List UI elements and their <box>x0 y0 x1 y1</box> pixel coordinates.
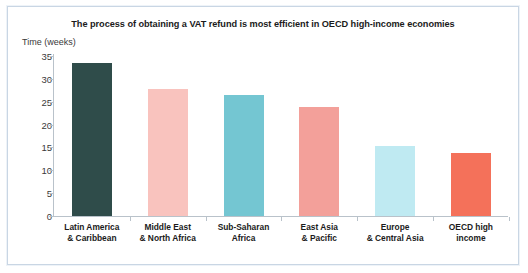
bar-2 <box>148 89 188 216</box>
bar-1 <box>72 63 112 216</box>
bar-3 <box>224 95 264 216</box>
y-tick-mark-30 <box>49 79 54 80</box>
x-category-label-line1: Middle East <box>144 222 191 232</box>
chart-figure: The process of obtaining a VAT refund is… <box>7 6 519 265</box>
bar-5 <box>375 146 415 216</box>
y-tick-mark-15 <box>49 147 54 148</box>
y-tick-mark-20 <box>49 125 54 126</box>
x-tick-mark-5 <box>433 217 434 221</box>
y-tick-mark-5 <box>49 193 54 194</box>
x-tick-mark-3 <box>281 217 282 221</box>
x-tick-mark-1 <box>130 217 131 221</box>
x-tick-mark-4 <box>357 217 358 221</box>
y-tick-mark-25 <box>49 102 54 103</box>
x-category-label-line1: Europe <box>381 222 410 232</box>
bar-6 <box>451 153 491 216</box>
x-category-label-line1: East Asia <box>301 222 338 232</box>
x-category-label-6: OECD highincome <box>423 222 519 244</box>
y-tick-mark-35 <box>49 56 54 57</box>
x-category-label-line2: income <box>423 233 519 244</box>
x-category-label-line1: Latin America <box>64 222 119 232</box>
bar-4 <box>299 107 339 216</box>
plot-area: 05101520253035 Latin America& CaribbeanM… <box>8 7 518 264</box>
x-tick-mark-2 <box>206 217 207 221</box>
y-tick-mark-0 <box>49 216 54 217</box>
x-category-label-line1: Sub-Saharan <box>218 222 270 232</box>
x-tick-mark-end <box>509 217 510 221</box>
y-tick-mark-10 <box>49 170 54 171</box>
x-category-label-line1: OECD high <box>449 222 493 232</box>
